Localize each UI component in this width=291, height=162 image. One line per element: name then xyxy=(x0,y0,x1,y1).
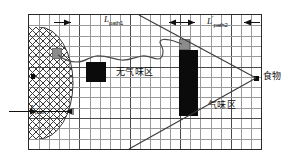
dim-arrow-path2-right xyxy=(243,19,260,26)
label-l-path1: Lpath1 xyxy=(104,15,123,26)
grid-plot-area xyxy=(28,14,262,150)
dim-arrow-path2-left xyxy=(180,19,196,26)
label-l-path2-prime: ′ xyxy=(212,14,214,22)
path-and-cone-overlay xyxy=(29,15,263,151)
diagram-canvas: Lpath Lpath1 L′path2 无气味区 气味区 食物 xyxy=(0,0,291,162)
label-l-path2: L′path2 xyxy=(207,15,228,28)
dim-arrow-path1-left xyxy=(54,19,72,26)
label-no-odor-zone: 无气味区 xyxy=(116,68,153,77)
label-l-path1-sub: path1 xyxy=(109,20,123,26)
label-l-path2-sub: path2 xyxy=(214,22,228,28)
label-l-path-sub: path xyxy=(35,109,46,115)
label-l-path: Lpath xyxy=(30,104,46,115)
label-odor-zone: 气味区 xyxy=(208,101,236,110)
label-food: 食物 xyxy=(263,72,282,81)
